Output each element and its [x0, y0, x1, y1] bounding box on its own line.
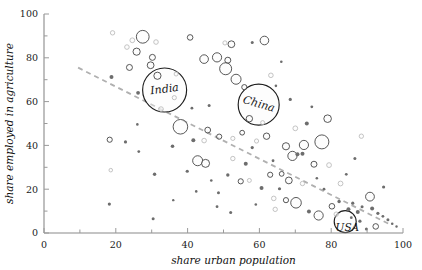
bubble [228, 41, 235, 48]
bubble [202, 159, 210, 167]
bubble [311, 161, 317, 167]
bubble [307, 210, 311, 214]
bubble [370, 206, 374, 210]
bubble [337, 200, 340, 203]
bubble [125, 45, 130, 50]
bubble [172, 96, 176, 100]
bubble [329, 203, 335, 209]
y-tick-label: 40 [26, 140, 38, 151]
bubble [351, 202, 354, 205]
x-tick-label: 40 [182, 239, 194, 250]
bubble [130, 38, 135, 43]
bubble [108, 202, 111, 205]
bubble [324, 115, 332, 123]
bubble-chart: 020406080100020406080100share urban popu… [0, 0, 422, 270]
y-tick-label: 0 [32, 227, 38, 238]
bubble [346, 207, 350, 211]
bubble [295, 152, 299, 156]
bubble [171, 144, 175, 148]
bubble [109, 75, 113, 79]
bubble [268, 172, 273, 177]
y-tick-label: 60 [26, 96, 38, 107]
bubble [334, 212, 338, 216]
bubble [229, 211, 232, 214]
bubble [273, 207, 277, 211]
bubble [231, 156, 235, 160]
bubble [195, 190, 198, 193]
bubble [173, 119, 188, 134]
bubble [299, 140, 308, 149]
bubble [251, 146, 254, 149]
bubble [231, 136, 235, 140]
bubble [271, 196, 276, 201]
bubble [285, 177, 292, 184]
bubble [289, 98, 292, 101]
bubble [109, 168, 113, 172]
bubble [251, 41, 254, 44]
bubble [133, 48, 140, 55]
y-axis-title: share employed in agriculture [3, 43, 15, 204]
bubble [226, 173, 229, 176]
x-tick-label: 100 [394, 239, 412, 250]
data-points-layer [107, 30, 398, 232]
bubble [338, 181, 343, 186]
trend-line [78, 68, 390, 225]
bubble [154, 40, 159, 45]
bubble [149, 54, 155, 60]
x-tick-label: 0 [41, 239, 47, 250]
bubble [386, 218, 389, 221]
bubble [353, 157, 356, 160]
bubble [314, 211, 323, 220]
x-tick-label: 60 [253, 239, 265, 250]
x-tick-label: 80 [325, 239, 337, 250]
bubble [205, 127, 211, 133]
bubble [212, 53, 221, 62]
bubble [269, 73, 274, 78]
bubble [242, 85, 247, 90]
bubble [278, 187, 281, 190]
bubble [350, 216, 353, 219]
bubble [152, 217, 155, 220]
bubble [187, 35, 193, 41]
bubble [282, 143, 289, 150]
bubble [255, 203, 258, 206]
bubble [193, 156, 203, 166]
bubble [147, 62, 154, 69]
bubble [159, 107, 164, 112]
bubble [382, 215, 385, 218]
bubble [200, 55, 209, 64]
bubble [279, 171, 284, 176]
bubble [191, 107, 194, 110]
bubble [254, 139, 258, 143]
bubble [305, 122, 309, 126]
bubble [310, 105, 313, 108]
bubble [191, 138, 195, 142]
bubble [247, 178, 251, 182]
bubble [366, 192, 375, 201]
bubble [260, 186, 264, 190]
bubble [174, 72, 178, 76]
bubble [137, 150, 140, 153]
bubble [291, 197, 302, 208]
bubble [231, 74, 241, 84]
bubble [327, 163, 332, 168]
bubble [246, 115, 252, 121]
y-tick-label: 100 [20, 8, 38, 19]
y-tick-label: 80 [26, 52, 38, 63]
bubble [300, 152, 304, 156]
bubble [316, 177, 319, 180]
bubble [376, 212, 379, 215]
bubble [210, 179, 213, 182]
bubble [391, 223, 394, 226]
bubble [261, 121, 265, 125]
bubble [217, 191, 220, 194]
bubble [136, 30, 149, 43]
bubble [238, 179, 243, 184]
bubble [263, 133, 269, 139]
y-tick-label: 20 [26, 184, 38, 195]
bubble [288, 151, 297, 160]
bubble [323, 188, 326, 191]
bubble [240, 130, 245, 135]
x-axis-title: share urban population [171, 254, 296, 266]
bubble [154, 72, 161, 79]
